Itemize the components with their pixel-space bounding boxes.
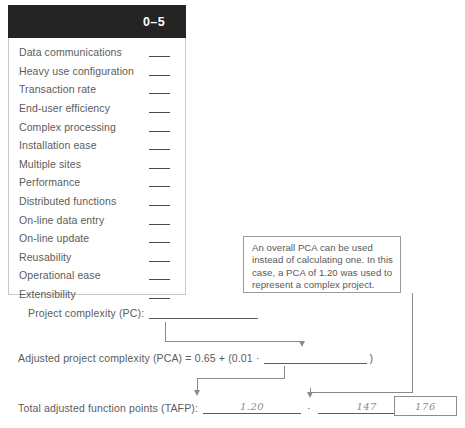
table-row: Multiple sites xyxy=(9,155,185,174)
worksheet-page: 0–5 Data communications Heavy use config… xyxy=(0,0,465,428)
callout-text: An overall PCA can be used instead of ca… xyxy=(252,242,393,292)
table-row: Extensibility xyxy=(9,285,185,304)
pca-input-blank[interactable] xyxy=(264,352,367,364)
adjusted-project-complexity-line: Adjusted project complexity (PCA) = 0.65… xyxy=(18,352,373,364)
table-row: End-user efficiency xyxy=(9,99,185,118)
table-row: Operational ease xyxy=(9,266,185,285)
connector-pca-horizontal xyxy=(197,378,285,379)
arrow-down-icon xyxy=(299,341,305,347)
factor-label: Data communications xyxy=(19,46,147,58)
factor-score-blank[interactable] xyxy=(149,47,170,57)
connector-pca-vertical-left xyxy=(197,378,198,390)
connector-pc-horizontal xyxy=(165,341,303,342)
complexity-factors-table: 0–5 Data communications Heavy use config… xyxy=(8,5,186,295)
pca-label: Adjusted project complexity (PCA) = 0.65… xyxy=(18,352,260,364)
pc-label: Project complexity (PC): xyxy=(28,307,144,319)
table-row: Reusability xyxy=(9,248,185,267)
table-row: On-line data entry xyxy=(9,210,185,229)
factor-score-blank[interactable] xyxy=(149,215,170,225)
connector-pca-vertical-right xyxy=(284,366,285,378)
pca-closing-paren: ) xyxy=(370,352,374,364)
factor-label: Transaction rate xyxy=(19,83,147,95)
factor-label: Reusability xyxy=(19,251,147,263)
project-complexity-line: Project complexity (PC): xyxy=(28,307,258,319)
factor-label: Heavy use configuration xyxy=(19,65,147,77)
factor-score-blank[interactable] xyxy=(149,270,170,280)
factor-label: Distributed functions xyxy=(19,195,147,207)
factor-label: Operational ease xyxy=(19,269,147,281)
factor-label: Multiple sites xyxy=(19,158,147,170)
tafp-label: Total adjusted function points (TAFP): xyxy=(18,402,198,414)
factor-score-blank[interactable] xyxy=(149,159,170,169)
factor-score-blank[interactable] xyxy=(149,252,170,262)
table-header: 0–5 xyxy=(8,5,186,38)
factor-score-blank[interactable] xyxy=(149,84,170,94)
factor-label: Complex processing xyxy=(19,121,147,133)
connector-callout-horizontal xyxy=(310,392,413,393)
pc-input-blank[interactable] xyxy=(149,307,258,319)
factor-label: On-line update xyxy=(19,232,147,244)
table-row: Complex processing xyxy=(9,117,185,136)
factor-score-blank[interactable] xyxy=(149,103,170,113)
factor-score-blank[interactable] xyxy=(149,66,170,76)
table-row: On-line update xyxy=(9,229,185,248)
factor-label: End-user efficiency xyxy=(19,102,147,114)
factor-score-blank[interactable] xyxy=(149,233,170,243)
scale-range-label: 0–5 xyxy=(143,15,186,29)
factor-score-blank[interactable] xyxy=(149,177,170,187)
factor-score-blank[interactable] xyxy=(149,289,170,299)
arrow-down-icon xyxy=(194,390,200,396)
total-adjusted-function-points-line: Total adjusted function points (TAFP): 1… xyxy=(18,402,438,414)
table-row: Heavy use configuration xyxy=(9,62,185,81)
factor-score-blank[interactable] xyxy=(149,196,170,206)
factor-score-blank[interactable] xyxy=(149,140,170,150)
pca-note-callout: An overall PCA can be used instead of ca… xyxy=(243,236,401,293)
table-row: Distributed functions xyxy=(9,192,185,211)
tafp-factor1-blank[interactable]: 1.20 xyxy=(203,402,301,414)
connector-pc-vertical xyxy=(165,322,166,341)
factor-label: Installation ease xyxy=(19,139,147,151)
table-row: Installation ease xyxy=(9,136,185,155)
factor-label: Performance xyxy=(19,176,147,188)
factor-label: Extensibility xyxy=(19,288,147,300)
tafp-operator: · xyxy=(301,402,318,414)
factor-label: On-line data entry xyxy=(19,214,147,226)
table-row: Data communications xyxy=(9,43,185,62)
connector-callout-vertical xyxy=(412,293,413,392)
factor-score-blank[interactable] xyxy=(149,122,170,132)
tafp-result-value: 176 xyxy=(415,401,436,412)
table-row: Performance xyxy=(9,173,185,192)
table-row: Transaction rate xyxy=(9,80,185,99)
table-body: Data communications Heavy use configurat… xyxy=(9,38,185,303)
arrow-down-icon xyxy=(307,392,313,398)
tafp-result-box[interactable]: 176 xyxy=(394,396,457,416)
tafp-factor1-value: 1.20 xyxy=(203,401,301,412)
